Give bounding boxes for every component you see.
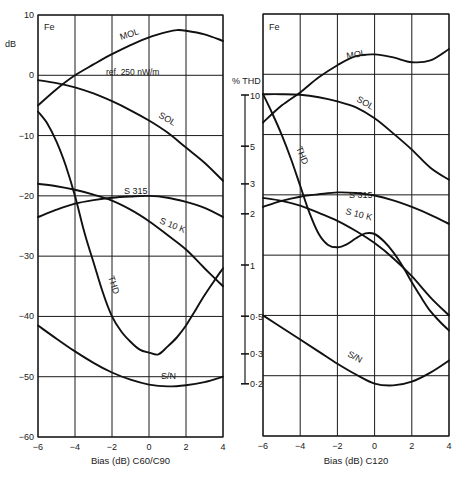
thd-tick-label: 10 [250,91,260,101]
curve-mol [263,49,449,123]
thd-tick-label: 0·2 [250,379,263,389]
x-tick-label: 0 [146,442,151,452]
y-tick-label: −60 [19,432,34,442]
left-y-axis-label: dB [5,39,16,49]
label-mol-right: MOL [346,48,367,61]
label-thd-left: THD [106,275,121,296]
label-s10k-right: S 10 K [345,206,374,222]
y-tick-label: −10 [19,131,34,141]
thd-percent-axis: 1053210·50·30·2 [241,91,263,390]
curve-sn [263,315,449,385]
y-tick-label: −40 [19,311,34,321]
right-chart-title: Fe [269,22,280,32]
label-thd-right: THD [294,145,310,166]
plot-frame [38,15,223,437]
y-tick-label: −20 [19,191,34,201]
right-x-axis-title: Bias (dB) C120 [324,455,388,466]
curve-sol [263,94,449,180]
y-tick-label: −30 [19,251,34,261]
label-sn-left: S/N [161,371,176,381]
plot-frame [263,14,449,436]
label-mol-left: MOL [119,26,141,42]
left-chart-title: Fe [44,22,55,32]
right-grid [263,14,449,436]
curve-s10k [38,184,223,286]
thd-tick-label: 3 [250,179,255,189]
thd-tick-label: 1 [250,261,255,271]
left-grid [38,15,223,437]
label-s315-right: S 315 [349,190,373,200]
x-tick-label: 4 [220,442,225,452]
left-x-axis-title: Bias (dB) C60/C90 [91,455,170,466]
y-tick-label: 10 [24,10,34,20]
x-tick-label: −6 [258,441,268,451]
x-tick-label: −6 [33,442,43,452]
label-s315-left: S 315 [124,186,148,196]
thd-axis-label: % THD [232,76,261,86]
figure: −6−4−2024100−10−20−30−40−50−60 Fe dB ref… [0,0,461,478]
curve-sn [38,326,223,387]
x-tick-label: −2 [107,442,117,452]
x-tick-label: 4 [446,441,451,451]
x-tick-label: −2 [332,441,342,451]
label-sol-left: SOL [157,110,178,128]
reference-note: ref. 250 nW/m [106,67,159,77]
x-tick-label: −4 [70,442,80,452]
thd-tick-label: 0·3 [250,349,263,359]
curve-thd [38,112,223,355]
thd-tick-label: 5 [250,142,255,152]
y-tick-label: 0 [29,70,34,80]
x-tick-label: 2 [183,442,188,452]
y-tick-label: −50 [19,372,34,382]
x-tick-label: 0 [372,441,377,451]
x-tick-label: −4 [295,441,305,451]
left-chart-panel: −6−4−2024100−10−20−30−40−50−60 Fe dB ref… [5,10,226,466]
thd-tick-label: 2 [250,209,255,219]
right-chart-panel: −6−4−2024 1053210·50·30·2 Fe % THD Bias … [232,14,452,466]
thd-tick-label: 0·5 [250,312,263,322]
x-tick-label: 2 [409,441,414,451]
label-sn-right: S/N [346,349,364,365]
left-curves [38,30,223,386]
curve-s315 [38,196,223,217]
right-axis-ticks: −6−4−2024 [258,441,452,451]
